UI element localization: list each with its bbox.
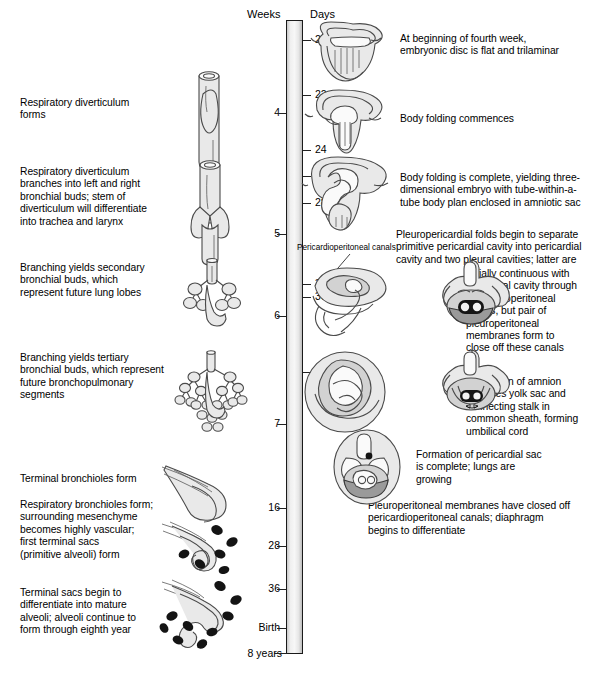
illustration-lung-stage-terminal-bronchioles: [160, 464, 238, 524]
note-fourth-week-trilaminar-disc: At beginning of fourth week, embryonic d…: [400, 33, 605, 58]
illustration-embryo-cross-section-umbilical: [440, 348, 512, 420]
illustration-embryo-day26-folded: [300, 155, 392, 231]
illustration-lung-stage-terminal-sacs: [158, 578, 250, 652]
note-diverticulum-branches: Respiratory diverticulum branches into l…: [20, 166, 200, 228]
illustration-lung-bud-stage-tertiary-buds: [176, 350, 246, 448]
illustration-lung-stage-respiratory-bronchioles: [160, 520, 246, 586]
illustration-embryo-day21-flat-disc: [303, 20, 389, 86]
illustration-embryo-cross-section-pleural: [440, 258, 512, 336]
illustration-embryo-day42-umbilical: [303, 350, 393, 436]
note-body-folding-complete: Body folding is complete, yielding three…: [400, 172, 608, 209]
note-body-folding-commences: Body folding commences: [400, 113, 605, 125]
note-pericardial-sac-complete: Formation of pericardial sac is complete…: [416, 449, 576, 486]
illustration-embryo-cross-section-pericardial: [332, 428, 406, 506]
note-tertiary-bronchial-buds: Branching yields tertiary bronchial buds…: [20, 352, 202, 402]
illustration-embryo-day22-folding: [303, 88, 391, 152]
illustration-lung-bud-stage-secondary-buds: [182, 258, 240, 338]
illustration-embryo-day35-pericardioperitoneal: [305, 260, 389, 344]
note-secondary-bronchial-buds: Branching yields secondary bronchial bud…: [20, 262, 200, 299]
note-respiratory-diverticulum-forms: Respiratory diverticulum forms: [20, 97, 195, 122]
illustration-lung-bud-stage-bronchial-buds: [186, 155, 236, 270]
embryology-timeline-figure: Weeks Days 4567162836Birth21222426283536…: [0, 0, 610, 684]
